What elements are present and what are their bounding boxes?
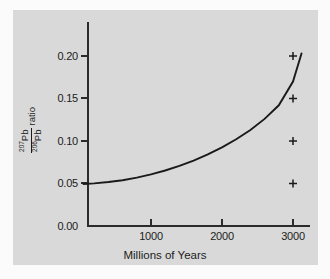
denominator-mass-number: 206 [31,141,38,152]
ytick-label-0.15: 0.15 [44,92,78,104]
xtick-label-2000: 2000 [200,230,244,242]
x-axis-label: Millions of Years [0,249,330,261]
y-axis-label: 207Pb 206Pb ratio [14,88,48,172]
x-axis-ticks [151,219,293,226]
chart-figure: 0.20 0.15 0.10 0.05 0.00 1000 2000 3000 … [0,0,330,279]
ratio-word: ratio [26,107,37,125]
denominator-element: Pb [32,130,43,142]
xtick-label-3000: 3000 [271,230,315,242]
ytick-label-0.10: 0.10 [44,135,78,147]
xtick-label-1000: 1000 [129,230,173,242]
ytick-label-0.20: 0.20 [44,50,78,62]
y-axis-label-rotated: 207Pb 206Pb ratio [19,88,43,172]
growth-curve [84,53,302,183]
fraction-denominator: 206Pb [32,129,44,153]
fraction-numerator: 207Pb [19,129,32,153]
y-axis-ticks [81,56,88,183]
isotope-ratio-fraction: 207Pb 206Pb [19,129,43,153]
numerator-mass-number: 207 [18,141,25,152]
ytick-label-0.05: 0.05 [44,177,78,189]
ytick-label-0.00: 0.00 [44,220,78,232]
numerator-element: Pb [19,130,30,142]
axis-lines [88,22,310,226]
